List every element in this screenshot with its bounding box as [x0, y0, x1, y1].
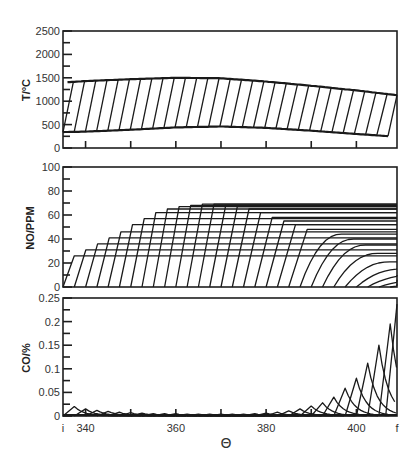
temperature-hatch-line	[321, 88, 331, 132]
temperature-hatch-line	[366, 93, 376, 135]
temperature-hatch-line	[310, 87, 320, 131]
x-tick-label: 340	[76, 422, 94, 434]
x-tick-label: 360	[167, 422, 185, 434]
temperature-hatch-line	[108, 80, 118, 131]
temperature-hatch-line	[298, 86, 308, 130]
temperature-hatch-line	[287, 84, 297, 129]
temperature-hatch-line	[141, 79, 151, 130]
co-tick-label: 0.25	[39, 292, 60, 304]
temperature-yticks: 25002000150010005000	[36, 25, 72, 154]
co-yticks: 0.250.20.150.10.050	[39, 292, 72, 422]
co-axis-title: CO/%	[20, 343, 32, 373]
temperature-xticks	[86, 141, 357, 148]
temperature-hatch-line	[153, 78, 163, 128]
co-traces	[63, 304, 397, 416]
no-trace	[108, 232, 397, 287]
co-frame	[63, 298, 397, 416]
temperature-hatch-line	[242, 81, 252, 128]
no-panel: 100806040200 NO/PPM	[24, 161, 397, 293]
no-trace	[323, 245, 398, 287]
temperature-hatch-line	[343, 90, 353, 133]
temperature-hatch-line	[332, 89, 342, 132]
no-tick-label: 40	[48, 233, 60, 245]
temperature-axis-title: T/°C	[20, 79, 32, 101]
temperature-traces	[63, 78, 397, 136]
temperature-tick-label: 2500	[36, 25, 60, 37]
x-tick-label: 400	[347, 422, 365, 434]
x-tick-label: 380	[257, 422, 275, 434]
temperature-hatch-line	[254, 81, 264, 127]
temperature-tick-label: 2000	[36, 48, 60, 60]
temperature-hatch-line	[175, 78, 185, 128]
temperature-hatch-line	[164, 78, 174, 128]
temperature-hatch-line	[85, 81, 95, 132]
temperature-hatch-line	[119, 79, 129, 130]
temperature-hatch-line	[130, 79, 140, 130]
co-panel: 0.250.20.150.10.050 CO/%	[20, 292, 397, 422]
co-tick-label: 0.1	[45, 363, 60, 375]
no-axis-title: NO/PPM	[24, 206, 36, 249]
co-tick-label: 0	[54, 410, 60, 422]
temperature-hatch-line	[377, 94, 387, 135]
no-trace	[345, 262, 397, 287]
no-tick-label: 100	[42, 161, 60, 173]
temperature-hatch-line	[265, 82, 275, 127]
temperature-hatch-line	[74, 81, 84, 132]
temperature-tick-label: 1500	[36, 72, 60, 84]
temperature-hatch-line	[388, 95, 397, 136]
co-tick-label: 0.05	[39, 386, 60, 398]
temperature-hatch-line	[354, 91, 364, 133]
no-traces	[63, 204, 397, 287]
no-trace	[63, 256, 397, 287]
unburned-temperature-line	[63, 127, 388, 137]
x-tick-label: i	[62, 422, 64, 434]
temperature-hatch-line	[209, 78, 219, 126]
figure: 25002000150010005000 T/°C 100806040200 N…	[0, 0, 418, 471]
no-tick-label: 80	[48, 185, 60, 197]
co-tick-label: 0.15	[39, 339, 60, 351]
temperature-hatch-line	[231, 80, 241, 127]
temperature-hatch-line	[197, 78, 207, 127]
temperature-hatch-line	[220, 79, 230, 127]
x-axis-labels: i340360380400f	[62, 422, 400, 434]
temperature-hatch-line	[97, 80, 107, 131]
x-axis-title: Θ	[220, 435, 231, 451]
temperature-tick-label: 500	[42, 119, 60, 131]
temperature-panel: 25002000150010005000 T/°C	[20, 25, 397, 154]
no-tick-label: 60	[48, 209, 60, 221]
temperature-tick-label: 0	[54, 142, 60, 154]
co-tick-label: 0.2	[45, 316, 60, 328]
temperature-hatch-line	[276, 83, 286, 128]
temperature-hatch-line	[186, 78, 196, 127]
temperature-tick-label: 1000	[36, 95, 60, 107]
x-tick-label: f	[395, 422, 399, 434]
no-tick-label: 20	[48, 257, 60, 269]
